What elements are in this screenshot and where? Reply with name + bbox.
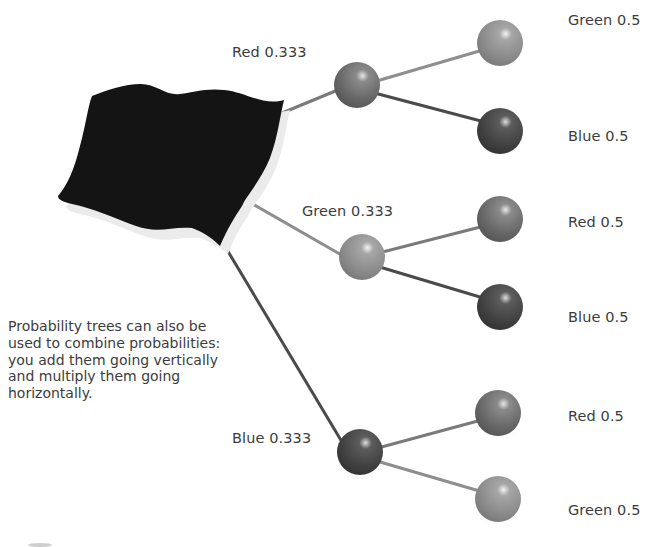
label-green-blue: Blue 0.5 (568, 309, 629, 325)
caption-text: Probability trees can also be used to co… (8, 318, 223, 402)
branch-red-blue (363, 90, 500, 126)
ball-red-level1 (334, 62, 380, 108)
probability-tree-diagram (0, 0, 657, 547)
ball-red-blue-branch (475, 390, 521, 436)
label-green-red: Red 0.5 (568, 214, 624, 230)
ball-red-green-branch (477, 196, 523, 242)
label-blue-red: Red 0.5 (568, 408, 624, 424)
bag-icon (58, 84, 290, 254)
ball-green-blue-branch (475, 476, 521, 522)
label-red-green: Green 0.5 (568, 12, 640, 28)
label-red-blue: Blue 0.5 (568, 128, 629, 144)
branch-blue (220, 238, 348, 452)
ball-blue-green-branch (477, 284, 523, 330)
label-green-first: Green 0.333 (302, 203, 393, 219)
ball-green-level1 (339, 234, 385, 280)
ball-blue-red-branch (477, 108, 523, 154)
ball-green-red-branch (477, 20, 523, 66)
label-red-first: Red 0.333 (232, 44, 307, 60)
label-blue-green: Green 0.5 (568, 502, 640, 518)
ball-blue-level1 (337, 429, 383, 475)
label-blue-first: Blue 0.333 (232, 430, 311, 446)
